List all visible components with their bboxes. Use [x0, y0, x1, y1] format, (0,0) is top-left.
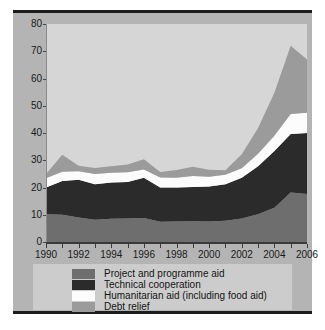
legend-label: Humanitarian aid (including food aid)	[104, 290, 267, 301]
y-tick-label: 40	[20, 128, 42, 138]
legend-item[interactable]: Humanitarian aid (including food aid)	[33, 290, 292, 301]
x-tick-label: 1996	[126, 249, 162, 260]
x-tick-label: 1998	[159, 249, 195, 260]
stacked-area-plot	[46, 24, 307, 242]
x-tick-mark	[62, 244, 63, 248]
x-tick-mark	[291, 244, 292, 248]
x-tick-mark	[274, 244, 275, 248]
area-series-svg	[46, 24, 307, 242]
x-tick-mark	[225, 244, 226, 248]
y-tick-label: 80	[20, 19, 42, 29]
plot-area-container: 01020304050607080 1990199219941996199820…	[20, 18, 307, 246]
legend-swatch	[72, 280, 95, 290]
legend-label: Debt relief	[104, 301, 150, 312]
legend-label: Project and programme aid	[104, 268, 225, 279]
chart-legend: Project and programme aidTechnical coope…	[33, 264, 292, 310]
x-tick-mark	[79, 244, 80, 248]
y-tick-label: 30	[20, 155, 42, 165]
y-tick-label: 60	[20, 74, 42, 84]
legend-swatch	[72, 302, 95, 312]
x-tick-mark	[193, 244, 194, 248]
y-tick-label: 10	[20, 210, 42, 220]
x-tick-mark	[144, 244, 145, 248]
x-tick-mark	[95, 244, 96, 248]
y-tick-label: 20	[20, 183, 42, 193]
y-tick-label: 70	[20, 46, 42, 56]
y-tick-label: 50	[20, 101, 42, 111]
legend-item[interactable]: Debt relief	[33, 301, 292, 312]
x-tick-label: 1992	[61, 249, 97, 260]
x-tick-mark	[209, 244, 210, 248]
x-tick-mark	[111, 244, 112, 248]
legend-swatch	[72, 291, 95, 301]
x-tick-mark	[307, 244, 308, 248]
x-tick-mark	[46, 244, 47, 248]
x-tick-mark	[177, 244, 178, 248]
y-axis-line	[46, 24, 47, 242]
x-tick-mark	[160, 244, 161, 248]
x-tick-label: 1994	[93, 249, 129, 260]
x-tick-label: 2002	[224, 249, 260, 260]
chart-figure: 01020304050607080 1990199219941996199820…	[0, 0, 325, 330]
legend-item[interactable]: Project and programme aid	[33, 268, 292, 279]
legend-swatch	[72, 269, 95, 279]
legend-label: Technical cooperation	[104, 279, 201, 290]
chart-panel: 01020304050607080 1990199219941996199820…	[13, 13, 312, 311]
x-tick-mark	[242, 244, 243, 248]
x-tick-mark	[258, 244, 259, 248]
x-tick-label: 2004	[256, 249, 292, 260]
x-tick-label: 2000	[191, 249, 227, 260]
x-tick-label: 1990	[28, 249, 64, 260]
x-tick-mark	[128, 244, 129, 248]
x-tick-label: 2006	[289, 249, 325, 260]
y-tick-label: 0	[20, 237, 42, 247]
legend-item[interactable]: Technical cooperation	[33, 279, 292, 290]
